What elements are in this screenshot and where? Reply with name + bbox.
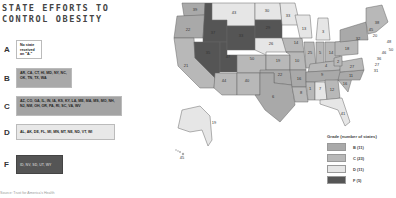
label-sc: 16: [343, 81, 348, 86]
grade-row-b: B AR, CA, CT, HI, MD, NY, NC, OK, TN, TX…: [4, 68, 72, 88]
label-ri: 50: [389, 47, 394, 52]
label-wi: 13: [302, 26, 307, 31]
label-ia: 14: [294, 40, 299, 45]
legend-title: Grade (number of states): [327, 134, 377, 139]
label-wa: 39: [193, 7, 198, 12]
label-ny: 32: [356, 36, 361, 41]
label-nj: 36: [377, 56, 382, 61]
legend-label-f: F (5): [353, 178, 361, 183]
label-mo: 10: [295, 58, 300, 63]
legend-swatch-f: [327, 176, 346, 184]
label-wy: 33: [239, 33, 244, 38]
label-ut: 47: [226, 54, 231, 59]
label-md: 31: [374, 68, 379, 73]
legend-swatch-b: [327, 143, 346, 151]
label-ak: 19: [212, 120, 217, 125]
label-ga: 12: [330, 87, 335, 92]
label-nv: 35: [206, 50, 211, 55]
state-nm: [237, 73, 260, 95]
map-legend: Grade (number of states) B (11) C (23) D…: [327, 134, 377, 187]
source-footnote: Source: Trust for America's Health: [0, 191, 54, 195]
label-nm: 40: [245, 78, 250, 83]
label-ar: 16: [297, 76, 302, 81]
label-nh: 20: [373, 33, 378, 38]
grade-letter: C: [4, 102, 16, 111]
label-az: 44: [222, 78, 227, 83]
page-title: STATE EFFORTS TO CONTROL OBESITY: [2, 3, 109, 25]
title-line-1: STATE EFFORTS TO: [2, 3, 109, 14]
legend-label-c: C (23): [353, 156, 364, 161]
label-ks: 19: [276, 58, 281, 63]
grade-d-states: AL, AK, DE, FL, MI, MN, MT, NE, ND, VT, …: [16, 124, 115, 140]
legend-item-d: D (11): [327, 165, 377, 173]
label-or: 22: [186, 27, 191, 32]
label-ma: 48: [387, 39, 392, 44]
label-sd: 29: [266, 25, 271, 30]
legend-label-d: D (11): [353, 167, 364, 172]
legend-label-b: B (11): [353, 145, 364, 150]
grade-row-c: C AZ, CO, GA, IL, IN, IA, KS, KY, LA, ME…: [4, 96, 122, 116]
label-ca: 21: [184, 63, 189, 68]
grade-letter: F: [4, 160, 16, 169]
label-vt: 45: [369, 27, 374, 32]
legend-swatch-c: [327, 154, 346, 162]
state-az: [214, 73, 237, 95]
label-de: 27: [375, 62, 380, 67]
grade-f-states: ID, NV, SD, UT, WY: [16, 155, 63, 174]
label-co: 50: [250, 56, 255, 61]
grade-row-a: A No state received an "A.": [4, 40, 42, 59]
legend-item-c: C (23): [327, 154, 377, 162]
label-va: 27: [350, 64, 355, 69]
label-hi: 45: [180, 155, 185, 160]
grade-row-d: D AL, AK, DE, FL, MI, MN, MT, NE, ND, VT…: [4, 124, 115, 140]
grade-b-states: AR, CA, CT, HI, MD, NY, NC, OK, TN, TX, …: [16, 68, 72, 88]
grade-c-states: AZ, CO, GA, IL, IN, IA, KS, KY, LA, ME, …: [16, 96, 122, 116]
label-pa: 18: [345, 46, 350, 51]
state-ny: [340, 22, 368, 42]
grade-row-f: F ID, NV, SD, UT, WY: [4, 155, 63, 174]
grade-letter: D: [4, 128, 16, 137]
label-id: 37: [211, 30, 216, 35]
grade-letter: A: [4, 45, 16, 54]
title-line-2: CONTROL OBESITY: [2, 14, 109, 25]
state-fl: [320, 98, 350, 126]
label-ct: 46: [382, 50, 387, 55]
grade-a-states: No state received an "A.": [16, 40, 42, 59]
label-mt: 43: [232, 10, 237, 15]
grade-letter: B: [4, 74, 16, 83]
label-ne: 26: [269, 41, 274, 46]
label-ok: 22: [278, 72, 283, 77]
label-oh: 14: [329, 50, 334, 55]
legend-item-b: B (11): [327, 143, 377, 151]
label-mn: 33: [286, 13, 291, 18]
label-fl: 41: [341, 111, 346, 116]
alaska: [178, 106, 212, 146]
legend-item-f: F (5): [327, 176, 377, 184]
label-nd: 30: [265, 8, 270, 13]
legend-swatch-d: [327, 165, 346, 173]
label-il: 25: [308, 50, 313, 55]
label-me: 38: [375, 20, 380, 25]
